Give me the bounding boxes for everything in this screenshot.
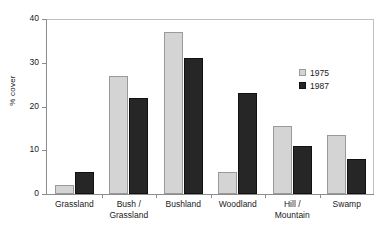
y-axis-tick-label: 40: [30, 13, 39, 23]
x-axis-label-line: Hill /: [265, 199, 320, 210]
x-axis-separator-tick: [265, 194, 266, 198]
x-axis-separator-tick: [102, 194, 103, 198]
y-axis-tick-label: 0: [34, 188, 39, 198]
bars-layer: [47, 19, 374, 194]
legend: 19751987: [299, 66, 359, 92]
legend-item[interactable]: 1987: [299, 79, 359, 92]
y-axis-tick-label: 20: [30, 101, 39, 111]
y-axis-tick-mark: [42, 150, 46, 151]
x-axis-label: Bush /Grassland: [102, 199, 157, 221]
y-axis-tick-mark: [42, 19, 46, 20]
y-axis-title: % cover: [8, 61, 17, 121]
bar-chart: % cover 010203040 GrasslandBush /Grassla…: [0, 0, 377, 236]
x-axis-label: Hill /Mountain: [265, 199, 320, 221]
y-axis-tick-mark: [42, 63, 46, 64]
y-axis-tick-label: 30: [30, 57, 39, 67]
x-axis-label: Swamp: [320, 199, 375, 210]
bar: [129, 98, 148, 194]
bar: [75, 172, 94, 194]
y-axis-tick: 20: [0, 107, 46, 108]
bar: [238, 93, 257, 194]
legend-item[interactable]: 1975: [299, 66, 359, 79]
bar: [184, 58, 203, 194]
x-axis-label: Bushland: [156, 199, 211, 210]
x-axis-label: Woodland: [211, 199, 266, 210]
x-axis-label-line: Bush /: [102, 199, 157, 210]
x-axis-separator-tick: [211, 194, 212, 198]
bar: [55, 185, 74, 194]
x-axis-label: Grassland: [47, 199, 102, 210]
y-axis-tick: 10: [0, 150, 46, 151]
bar: [109, 76, 128, 194]
x-axis-separator-tick: [320, 194, 321, 198]
legend-label: 1975: [310, 68, 329, 78]
y-axis-tick: 30: [0, 63, 46, 64]
y-axis-tick-mark: [42, 194, 46, 195]
x-axis-label-line: Swamp: [320, 199, 375, 210]
y-axis-tick: 40: [0, 19, 46, 20]
x-axis-labels: GrasslandBush /GrasslandBushlandWoodland…: [47, 199, 374, 236]
x-axis-separator-tick: [156, 194, 157, 198]
x-axis-label-line: Grassland: [47, 199, 102, 210]
bar: [347, 159, 366, 194]
legend-label: 1987: [310, 81, 329, 91]
x-axis-label-line: Mountain: [265, 210, 320, 221]
x-axis-label-line: Bushland: [156, 199, 211, 210]
y-axis-tick-label: 10: [30, 144, 39, 154]
y-axis-tick: 0: [0, 194, 46, 195]
bar: [218, 172, 237, 194]
x-axis-label-line: Grassland: [102, 210, 157, 221]
legend-swatch-icon: [299, 82, 306, 89]
bar: [164, 32, 183, 194]
bar: [293, 146, 312, 194]
bar: [273, 126, 292, 194]
x-axis-label-line: Woodland: [211, 199, 266, 210]
legend-swatch-icon: [299, 69, 306, 76]
bar: [327, 135, 346, 194]
y-axis-tick-mark: [42, 107, 46, 108]
